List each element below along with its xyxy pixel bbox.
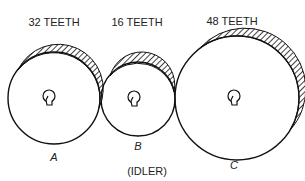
gear-c-letter: C <box>230 159 238 171</box>
gear-c <box>175 28 305 160</box>
gear-b <box>101 52 175 136</box>
gear-a-letter: A <box>50 151 57 163</box>
gear-c-hatched-rim <box>200 28 305 130</box>
idler-note: (IDLER) <box>127 165 167 177</box>
gear-b-hatched-rim <box>110 52 175 92</box>
gear-b-teeth-label: 16 TEETH <box>111 16 162 28</box>
shaft-hub-icon <box>43 90 55 105</box>
gear-a <box>8 44 103 144</box>
shaft-hub-icon <box>228 90 240 105</box>
gear-a-teeth-label: 32 TEETH <box>28 16 79 28</box>
gear-b-letter: B <box>134 140 141 152</box>
shaft-hub-icon <box>128 91 140 106</box>
gear-a-hatched-rim <box>18 44 103 108</box>
gear-c-teeth-label: 48 TEETH <box>206 15 257 27</box>
